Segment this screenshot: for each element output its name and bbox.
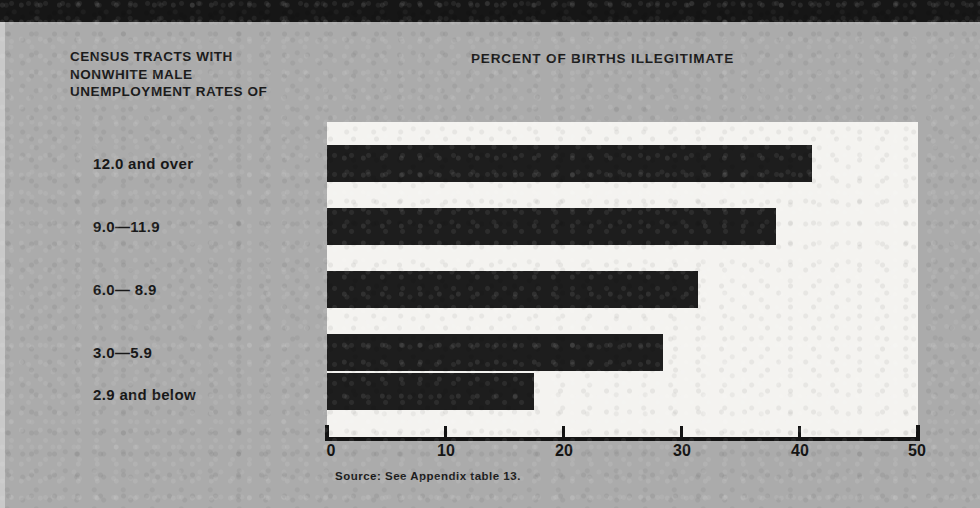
chart-title: PERCENT OF BIRTHS ILLEGITIMATE [471, 51, 734, 66]
chart-page: CENSUS TRACTS WITH NONWHITE MALE UNEMPLO… [0, 0, 980, 508]
x-axis-line [325, 437, 920, 441]
page-left-edge [0, 22, 5, 508]
scan-top-band [0, 0, 980, 22]
row-header-line-3: UNEMPLOYMENT RATES OF [70, 83, 370, 101]
scan-band-grain [0, 0, 980, 22]
category-label-3: 3.0—5.9 [93, 344, 152, 361]
category-label-4: 2.9 and below [93, 386, 196, 403]
row-header-line-2: NONWHITE MALE [70, 66, 370, 84]
bar-0 [327, 145, 812, 182]
x-axis-label-5: 50 [908, 442, 926, 460]
x-axis-tick-30 [680, 426, 683, 438]
category-label-0: 12.0 and over [93, 155, 193, 172]
x-axis-tick-40 [798, 426, 801, 438]
x-axis-tick-20 [562, 426, 565, 438]
category-label-2: 6.0— 8.9 [93, 281, 157, 298]
x-axis-label-2: 20 [555, 442, 573, 460]
bar-3 [327, 334, 663, 371]
row-category-header: CENSUS TRACTS WITH NONWHITE MALE UNEMPLO… [70, 48, 370, 101]
source-note: Source: See Appendix table 13. [335, 470, 521, 482]
bar-4 [327, 373, 534, 410]
x-axis-label-4: 40 [791, 442, 809, 460]
plot-area [327, 122, 918, 437]
category-label-1: 9.0—11.9 [93, 218, 160, 235]
bar-2 [327, 271, 698, 308]
x-axis-left-cap [325, 425, 329, 441]
x-axis-right-cap [916, 425, 920, 441]
bar-1 [327, 208, 776, 245]
x-axis-tick-10 [444, 426, 447, 438]
row-header-line-1: CENSUS TRACTS WITH [70, 48, 370, 66]
x-axis-label-3: 30 [673, 442, 691, 460]
x-axis-label-1: 10 [437, 442, 455, 460]
x-axis-label-0: 0 [327, 442, 336, 460]
